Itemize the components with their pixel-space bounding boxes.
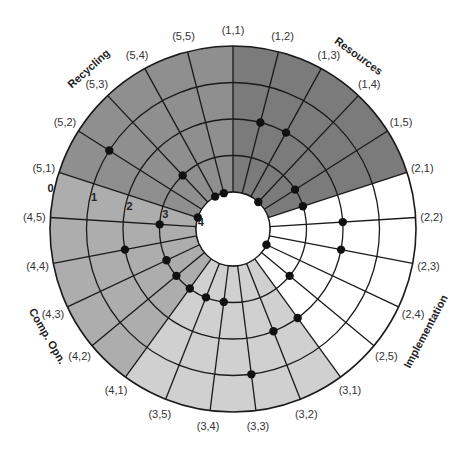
- data-point: [291, 185, 299, 193]
- spoke-label: (1,4): [358, 78, 381, 90]
- spoke-label: (3,1): [339, 384, 362, 396]
- data-point: [220, 298, 228, 306]
- spoke-label: (3,5): [148, 408, 171, 420]
- ring-label: 1: [91, 191, 97, 203]
- data-point: [285, 272, 293, 280]
- data-point: [256, 118, 264, 126]
- data-point: [339, 218, 347, 226]
- spoke-label: (2,5): [375, 350, 398, 362]
- group-label-implementation: Implementation: [401, 292, 450, 370]
- spoke-label: (5,1): [32, 162, 55, 174]
- data-point: [121, 245, 129, 253]
- spoke-label: (4,5): [23, 211, 46, 223]
- data-point: [269, 327, 277, 335]
- spoke-label: (1,5): [390, 116, 413, 128]
- spoke-label: (4,2): [68, 350, 91, 362]
- group-label-resources: Resources: [332, 34, 385, 77]
- spoke-label: (3,2): [295, 408, 318, 420]
- data-point: [155, 220, 163, 228]
- data-point: [162, 256, 170, 264]
- data-point: [282, 128, 290, 136]
- spoke-label: (3,4): [197, 420, 220, 432]
- data-point: [186, 284, 194, 292]
- data-point: [247, 370, 255, 378]
- ring-label: 2: [127, 200, 133, 212]
- data-point: [220, 189, 228, 197]
- ring-label: 3: [162, 208, 168, 220]
- data-point: [299, 202, 307, 210]
- spoke-label: (5,5): [172, 30, 195, 42]
- data-point: [262, 241, 270, 249]
- data-point: [211, 192, 219, 200]
- spoke-label: (4,1): [105, 384, 128, 396]
- spoke-label: (5,4): [126, 49, 149, 61]
- radial-chart-canvas: (1,1)(1,2)(1,3)(1,4)(1,5)(2,1)(2,2)(2,3)…: [0, 0, 473, 456]
- spoke-label: (4,4): [26, 260, 49, 272]
- data-point: [337, 245, 345, 253]
- spoke-label: (3,3): [247, 420, 270, 432]
- spoke-label: (5,2): [54, 116, 77, 128]
- ring-label: 4: [198, 216, 205, 228]
- data-point: [202, 293, 210, 301]
- radial-chart: (1,1)(1,2)(1,3)(1,4)(1,5)(2,1)(2,2)(2,3)…: [0, 0, 473, 456]
- data-point: [293, 314, 301, 322]
- spoke-label: (5,3): [85, 78, 108, 90]
- data-point: [172, 272, 180, 280]
- data-point: [254, 198, 262, 206]
- spoke-label: (2,1): [411, 162, 434, 174]
- spoke-label: (2,2): [420, 211, 443, 223]
- spoke-label: (2,3): [417, 260, 440, 272]
- data-point: [105, 146, 113, 154]
- ring-label: 0: [48, 182, 54, 194]
- spoke-label: (1,1): [222, 24, 245, 36]
- spoke-label: (1,3): [318, 49, 341, 61]
- data-point: [178, 171, 186, 179]
- spoke-label: (2,4): [402, 308, 425, 320]
- spoke-label: (1,2): [271, 30, 294, 42]
